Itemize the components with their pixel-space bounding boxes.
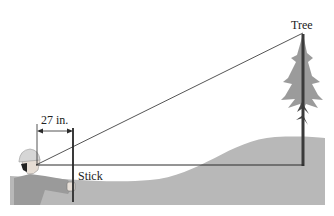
stick-label: Stick xyxy=(78,170,103,182)
similar-triangles-diagram xyxy=(0,0,334,216)
tree-trunk xyxy=(302,34,305,166)
tree-label: Tree xyxy=(291,19,313,31)
distance-label: 27 in. xyxy=(41,114,68,126)
arrow-left-icon xyxy=(37,129,43,134)
ground-hill xyxy=(10,137,325,205)
